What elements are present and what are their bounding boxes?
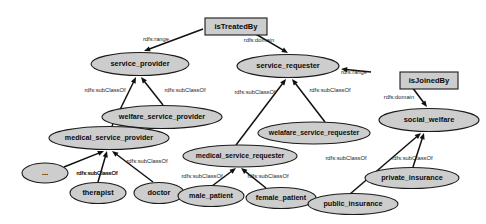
edge-line bbox=[144, 81, 163, 105]
class-node-label: service_requester bbox=[256, 61, 319, 70]
property-node-label: isJoinedBy bbox=[409, 76, 450, 85]
edge-ellipsis-to-medical_service_provider bbox=[64, 151, 104, 167]
nodes-layer: service_providerservice_requesterwelfare… bbox=[22, 18, 479, 215]
class-node-label: social_welfare bbox=[404, 115, 455, 124]
arrow-head-icon bbox=[144, 46, 151, 51]
class-node-social_welfare[interactable]: social_welfare bbox=[379, 109, 479, 132]
class-node-label: private_insurance bbox=[381, 173, 443, 182]
class-node-label: medical_service_provider bbox=[65, 133, 154, 142]
class-node-service_provider[interactable]: service_provider bbox=[91, 53, 189, 76]
class-node-label: ... bbox=[42, 168, 48, 177]
arrow-head-icon bbox=[97, 151, 104, 156]
rdfs-class-diagram: service_providerservice_requesterwelfare… bbox=[0, 0, 486, 224]
edge-label-rdfs-subClassOf: rdfs:subClassOf bbox=[234, 89, 276, 95]
class-node-female_patient[interactable]: female_patient bbox=[246, 188, 316, 209]
class-node-therapist[interactable]: therapist bbox=[70, 183, 126, 204]
class-node-label: female_patient bbox=[256, 193, 307, 202]
edge-line bbox=[64, 153, 99, 167]
edge-label-rdfs-subClassOf: rdfs:subClassOf bbox=[325, 155, 367, 161]
class-node-medical_service_provider[interactable]: medical_service_provider bbox=[49, 127, 169, 150]
class-node-label: male_patient bbox=[189, 191, 234, 200]
class-node-label: medical_service_requester bbox=[196, 152, 285, 160]
class-node-label: public_insurance bbox=[323, 199, 382, 208]
edge-label-rdfs-subClassOf: rdfs:subClassOf bbox=[76, 170, 118, 176]
class-node-label: therapist bbox=[82, 188, 114, 197]
class-node-label: welafare_service_requester bbox=[268, 129, 360, 137]
edge-line bbox=[413, 138, 422, 167]
class-node-doctor[interactable]: doctor bbox=[134, 183, 184, 204]
edge-welfare_service_provider-to-service_provider bbox=[141, 77, 163, 105]
edge-label-rdfs-domain: rdfs:domain bbox=[244, 37, 274, 43]
class-node-welafare_service_requester[interactable]: welafare_service_requester bbox=[258, 122, 370, 144]
class-node-label: welfare_service_provider bbox=[118, 112, 206, 121]
class-node-service_requester[interactable]: service_requester bbox=[237, 55, 339, 78]
class-node-public_insurance[interactable]: public_insurance bbox=[308, 194, 398, 215]
edge-label-rdfs-domain: rdfs:domain bbox=[384, 94, 414, 100]
edge-label-rdfs-subClassOf: rdfs:subClassOf bbox=[181, 173, 223, 179]
class-node-private_insurance[interactable]: private_insurance bbox=[365, 168, 459, 189]
class-node-label: doctor bbox=[148, 188, 171, 197]
class-node-medical_service_requester[interactable]: medical_service_requester bbox=[183, 145, 297, 167]
edge-welafare_service_requester-to-service_requester bbox=[292, 79, 325, 122]
edge-doctor-to-medical_service_provider bbox=[112, 151, 153, 182]
class-node-ellipsis[interactable]: ... bbox=[22, 163, 68, 183]
diagram-canvas: service_providerservice_requesterwelfare… bbox=[0, 0, 486, 224]
edge-label-rdfs-subClassOf: rdfs:subClassOf bbox=[126, 158, 168, 164]
class-node-male_patient[interactable]: male_patient bbox=[178, 186, 244, 207]
edge-label-rdfs-range: rdfs:range bbox=[143, 36, 169, 42]
edge-label-rdfs-subClassOf: rdfs:subClassOf bbox=[309, 87, 351, 93]
class-node-welfare_service_provider[interactable]: welfare_service_provider bbox=[102, 106, 222, 129]
edge-label-rdfs-subClassOf: rdfs:subClassOf bbox=[391, 155, 433, 161]
arrow-head-icon bbox=[103, 151, 108, 158]
class-node-label: service_provider bbox=[110, 59, 169, 68]
edge-label-rdfs-subClassOf: rdfs:subClassOf bbox=[84, 87, 126, 93]
property-node-isJoinedBy[interactable]: isJoinedBy bbox=[400, 72, 458, 89]
property-node-label: isTreatedBy bbox=[214, 22, 258, 31]
edge-label-rdfs-subClassOf: rdfs:subClassOf bbox=[247, 173, 289, 179]
edge-therapist-to-medical_service_provider bbox=[98, 151, 108, 182]
edge-label-rdfs-range: rdfs:range bbox=[341, 69, 367, 75]
property-node-isTreatedBy[interactable]: isTreatedBy bbox=[205, 18, 267, 35]
edge-label-rdfs-subClassOf: rdfs:subClassOf bbox=[164, 87, 206, 93]
